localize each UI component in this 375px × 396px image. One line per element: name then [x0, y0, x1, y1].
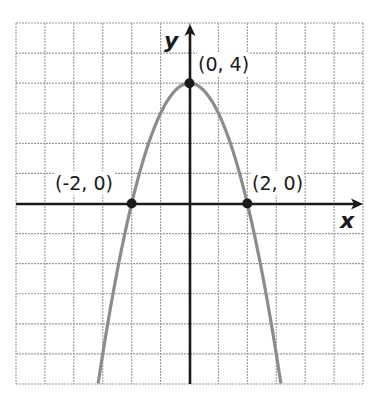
point-marker: [242, 199, 252, 209]
x-axis-label: x: [340, 210, 354, 232]
vertex-label: (0, 4): [197, 52, 250, 76]
left-intercept-label: (-2, 0): [54, 171, 114, 195]
y-axis-label: y: [164, 30, 178, 52]
point-marker: [185, 78, 195, 88]
right-intercept-label: (2, 0): [251, 171, 304, 195]
coordinate-plane: [0, 0, 375, 396]
point-marker: [127, 199, 137, 209]
axes: [16, 24, 363, 384]
